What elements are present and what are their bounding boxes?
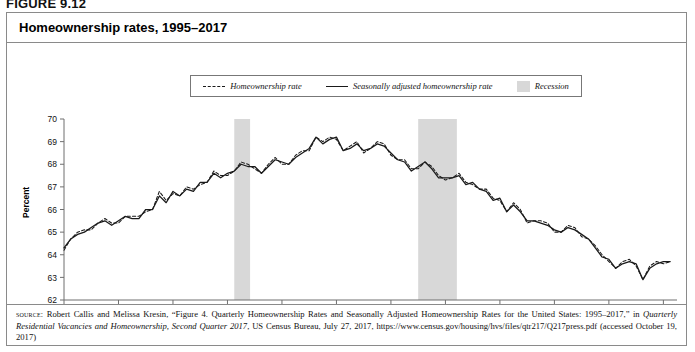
series-line-homeownership-rate <box>64 137 670 280</box>
source-text: source: Robert Callis and Melissa Kresin… <box>16 309 677 344</box>
legend-item-seasonally-adjusted: Seasonally adjusted homeownership rate <box>326 81 493 91</box>
y-tick-label: 69 <box>48 137 58 147</box>
y-tick-label: 65 <box>48 227 58 237</box>
source-body: Robert Callis and Melissa Kresin, “Figur… <box>43 309 643 319</box>
page-title: Homeownership rates, 1995–2017 <box>19 20 227 35</box>
y-tick-label: 70 <box>48 114 58 124</box>
y-tick-label: 68 <box>48 159 58 169</box>
legend-label: Seasonally adjusted homeownership rate <box>353 81 493 91</box>
legend-item-recession: Recession <box>517 81 569 92</box>
legend-label: Homeownership rate <box>230 81 302 91</box>
series-line-seasonally-adjusted <box>64 137 670 280</box>
chart-legend: Homeownership rate Seasonally adjusted h… <box>190 75 582 97</box>
recession-band <box>418 119 457 300</box>
recession-band <box>234 119 250 300</box>
title-band: Homeownership rates, 1995–2017 <box>7 13 686 43</box>
legend-label: Recession <box>535 81 569 91</box>
chart-plot-area: Percent 70696867666564636219951997199920… <box>7 43 686 306</box>
y-tick-label: 64 <box>48 250 58 260</box>
dashed-line-icon <box>203 86 225 87</box>
figure-number: FIGURE 9.12 <box>6 0 86 11</box>
y-tick-label: 66 <box>48 205 58 215</box>
figure-container: Homeownership rates, 1995–2017 Percent 7… <box>6 12 687 346</box>
y-tick-label: 67 <box>48 182 58 192</box>
source-kicker: source: <box>16 310 43 319</box>
legend-item-homeownership-rate: Homeownership rate <box>203 81 302 91</box>
y-tick-label: 63 <box>48 273 58 283</box>
gray-band-icon <box>517 81 530 92</box>
source-note: source: Robert Callis and Melissa Kresin… <box>7 304 686 345</box>
solid-line-icon <box>326 86 348 87</box>
